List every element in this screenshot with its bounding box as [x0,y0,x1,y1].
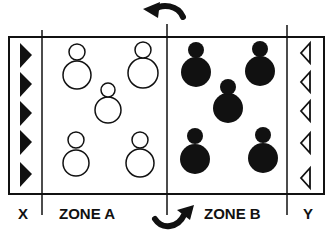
arrow-right-icon [155,205,194,226]
zone-b-figures [180,41,278,174]
zone-a-figures [63,42,158,177]
player-filled-icon [213,79,243,123]
player-outline-icon [63,44,91,89]
triangle-outline-icon [301,133,310,153]
player-filled-icon [245,41,275,86]
player-outline-icon [95,83,121,123]
label-y: Y [303,205,313,222]
arrow-left-icon [143,2,183,18]
triangle-icon [20,72,32,97]
triangle-outline-icon [301,168,310,188]
triangle-icon [20,101,32,126]
zone-y-triangles [301,43,310,188]
player-filled-icon [181,42,211,87]
player-filled-icon [180,128,210,174]
triangle-icon [20,130,32,155]
zone-diagram [0,0,333,237]
label-zone-a: ZONE A [59,205,115,222]
triangle-outline-icon [301,101,310,121]
player-outline-icon [63,132,89,176]
triangle-outline-icon [301,43,310,63]
label-zone-b: ZONE B [204,205,261,222]
player-filled-icon [248,127,278,173]
zone-x-triangles [20,43,32,187]
player-outline-icon [128,42,158,88]
triangle-icon [20,43,32,68]
triangle-outline-icon [301,72,310,92]
triangle-icon [20,162,32,187]
label-x: X [18,205,28,222]
player-outline-icon [126,132,154,177]
